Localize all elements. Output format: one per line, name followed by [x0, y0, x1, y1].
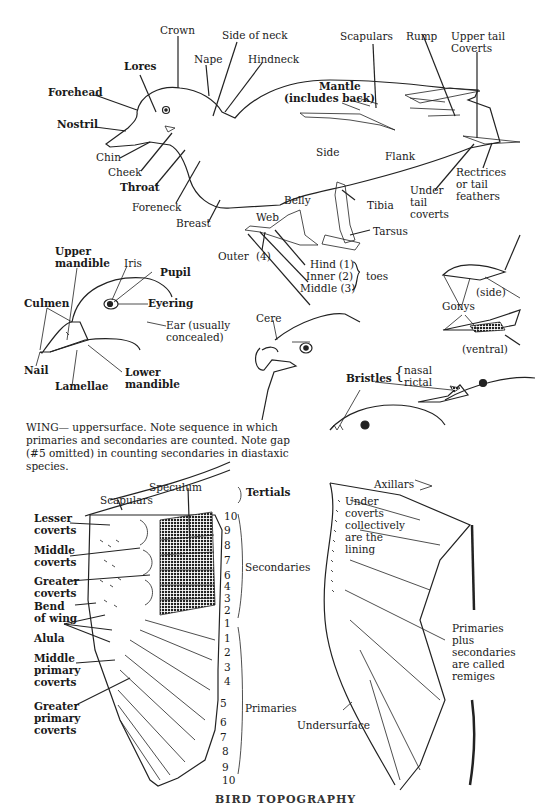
primary-number: 9 [222, 761, 229, 773]
wing-caption: WING— uppersurface. Note sequence in whi… [26, 421, 296, 473]
label-alula: Alula [34, 632, 65, 644]
label-lesser-coverts: Lesser coverts [34, 512, 79, 536]
hawk-head-drawing [256, 314, 360, 420]
label-upper-tail-coverts: Upper tail Coverts [451, 30, 511, 54]
label-bristles-nasal: nasal [404, 364, 432, 376]
label-cheek: Cheek [108, 166, 142, 178]
label-eyering: Eyering [148, 297, 193, 309]
label-lower-mandible: Lower mandible [125, 366, 180, 390]
secondary-number: 4 [224, 580, 231, 592]
label-lamellae: Lamellae [55, 380, 108, 392]
label-greater-coverts: Greater coverts [34, 575, 79, 599]
label-tertials: Tertials [246, 486, 290, 498]
body-leader-lines [95, 35, 492, 305]
label-foreneck: Foreneck [132, 201, 182, 213]
label-outer-toe-number: (4) [256, 250, 271, 262]
label-culmen: Culmen [24, 297, 69, 309]
primary-number: 5 [220, 697, 227, 709]
label-scapulars: Scapulars [340, 30, 393, 42]
secondary-number: 2 [224, 604, 231, 616]
label-chin: Chin [96, 151, 121, 163]
label-toes-group: toes [366, 270, 388, 282]
label-forehead: Forehead [48, 86, 103, 98]
label-iris: Iris [124, 257, 142, 269]
label-speculum: Speculum [149, 481, 202, 493]
label-ear: Ear (usually concealed) [166, 319, 241, 343]
label-axillars: Axillars [374, 478, 414, 490]
label-middle-toe: Middle (3) [300, 282, 355, 294]
primary-number: 6 [220, 716, 227, 728]
label-rump: Rump [406, 30, 437, 42]
label-middle-coverts: Middle coverts [34, 544, 79, 568]
secondary-number: 3 [224, 592, 231, 604]
label-nape: Nape [194, 53, 222, 65]
label-mantle: Mantle [319, 80, 361, 92]
label-nail: Nail [24, 364, 48, 376]
label-breast: Breast [176, 217, 211, 229]
secondary-number: 9 [224, 524, 231, 536]
label-bend-of-wing: Bend of wing [34, 600, 79, 624]
label-under-coverts: Under coverts collectively are the linin… [345, 495, 405, 555]
primary-number: 8 [222, 745, 229, 757]
label-mantle-note: (includes back) [284, 92, 375, 104]
label-web: Web [256, 211, 279, 223]
label-side-of-neck: Side of neck [222, 29, 288, 41]
label-pupil: Pupil [160, 266, 191, 278]
label-middle-primary-coverts: Middle primary coverts [34, 652, 84, 688]
label-side: Side [316, 146, 340, 158]
label-wing-scapulars: Scapulars [100, 494, 153, 506]
bristle-bird-drawings [330, 377, 535, 430]
label-greater-primary-coverts: Greater primary coverts [34, 700, 84, 736]
primary-number: 7 [220, 731, 227, 743]
label-flank: Flank [385, 150, 415, 162]
primary-number: 1 [224, 632, 231, 644]
label-lores: Lores [124, 60, 157, 72]
label-nostril: Nostril [57, 118, 98, 130]
label-primaries: Primaries [245, 702, 297, 714]
secondary-number: 10 [224, 510, 237, 522]
label-under-tail-coverts: Under tail coverts [410, 184, 455, 220]
label-inner-toe: Inner (2) [306, 270, 353, 282]
upper-wing-drawing [85, 462, 243, 786]
primary-number: 10 [222, 774, 235, 786]
label-gonys-ventral: (ventral) [462, 343, 508, 355]
label-bristles: Bristles [346, 372, 392, 384]
label-remiges-note: Primaries plus secondaries are called re… [452, 622, 522, 682]
bristles-brace: { [394, 362, 404, 386]
label-upper-mandible: Upper mandible [55, 245, 105, 269]
label-rectrices: Rectrices or tail feathers [456, 166, 516, 202]
label-outer-toe: Outer [218, 250, 249, 262]
label-tarsus: Tarsus [373, 225, 408, 237]
figure-title: BIRD TOPOGRAPHY [215, 793, 356, 806]
label-throat: Throat [120, 181, 160, 193]
label-bristles-rictal: rictal [404, 376, 432, 388]
label-cere: Cere [256, 312, 281, 324]
secondary-number: 1 [224, 617, 231, 629]
label-tibia: Tibia [367, 199, 394, 211]
primary-number: 3 [224, 661, 231, 673]
label-hind-toe: Hind (1) [310, 258, 354, 270]
label-gonys-side: (side) [476, 286, 506, 298]
primary-number: 4 [224, 675, 231, 687]
label-belly: Belly [284, 194, 311, 206]
label-crown: Crown [160, 24, 195, 36]
primary-number: 2 [224, 646, 231, 658]
secondary-number: 8 [224, 539, 231, 551]
label-undersurface: Undersurface [297, 719, 370, 731]
secondary-number: 7 [224, 554, 231, 566]
label-gonys: Gonys [442, 300, 475, 312]
label-hindneck: Hindneck [248, 53, 299, 65]
label-secondaries: Secondaries [245, 561, 310, 573]
